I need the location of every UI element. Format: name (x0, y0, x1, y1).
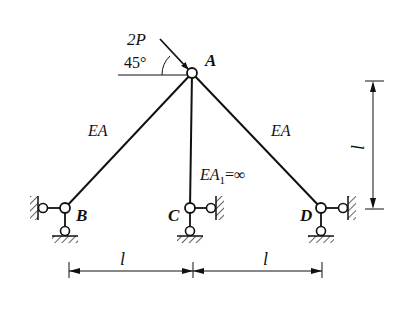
member-AD-label: EA (270, 122, 291, 139)
node-label-A: A (204, 51, 216, 70)
horizontal-dimension-label-1: l (120, 249, 125, 269)
svg-text:EA1=∞: EA1=∞ (199, 166, 245, 186)
vertical-dimension-label: l (348, 145, 368, 150)
member-AC-label: EA1=∞ (199, 166, 245, 186)
support-C (177, 196, 224, 243)
load-label: 2P (127, 30, 146, 49)
truss-diagram: 2P 45° A EA EA EA1=∞ B C (0, 0, 408, 309)
horizontal-dimension-label-2: l (263, 249, 268, 269)
member-AC (190, 73, 192, 208)
angle-label: 45° (124, 54, 146, 71)
node-label-C: C (168, 206, 180, 225)
node-label-B: B (75, 206, 87, 225)
node-label-D: D (299, 206, 312, 225)
member-AD (192, 73, 321, 208)
member-AB (65, 73, 192, 208)
member-AB-label: EA (87, 122, 108, 139)
horizontal-dimension (69, 262, 322, 278)
node-A-hinge (187, 68, 197, 78)
